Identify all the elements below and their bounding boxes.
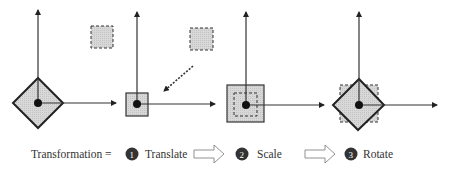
panel-rotated [333,12,437,130]
step-label-scale: Scale [257,148,282,160]
panel-translated [126,12,215,116]
step-number-3: 3 [349,150,354,160]
step-number-1: 1 [130,150,135,160]
origin-dot [355,101,363,109]
origin-dot [34,99,42,107]
step-number-2: 2 [240,150,245,160]
transformation-diagram: Transformation = 1 Translate 2 Scale 3 R… [0,0,450,173]
dashed-square-ghost [91,26,113,48]
translate-direction-arrow [164,66,193,91]
hollow-arrow-icon [305,145,335,163]
hollow-arrow-icon [194,145,224,163]
formula-row: Transformation = 1 Translate 2 Scale 3 R… [31,145,393,163]
origin-dot [133,100,141,108]
step-label-translate: Translate [145,148,187,160]
dashed-square-ghost [190,28,213,50]
origin-dot [242,101,250,109]
panel-scaled [227,12,324,122]
formula-label: Transformation = [31,148,112,160]
step-label-rotate: Rotate [363,148,393,160]
panel-original [13,10,116,128]
